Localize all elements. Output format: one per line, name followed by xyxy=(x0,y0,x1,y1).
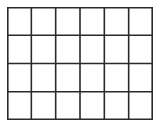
grid-diagram xyxy=(7,7,153,120)
grid-lines xyxy=(7,7,153,120)
